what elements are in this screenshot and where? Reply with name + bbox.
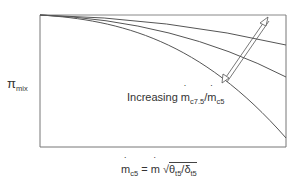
annotation-denominator-subscript: c5 [216, 97, 224, 106]
y-axis-label: πmix [7, 76, 28, 93]
annotation-numerator: m [181, 91, 190, 103]
annotation-denominator: m [207, 91, 216, 103]
annotation-prefix: Increasing [127, 91, 181, 103]
sqrt-radicand: θt5/δt5 [169, 162, 197, 175]
x-label-subscript: c5 [130, 169, 138, 178]
annotation-numerator-subscript: c7.5 [190, 97, 204, 106]
y-axis-symbol: π [7, 76, 16, 91]
curve-1 [40, 15, 286, 45]
x-axis-label: mc5 = m √θt5/δt5 [121, 163, 197, 178]
curve-2 [40, 15, 286, 77]
delta-subscript: t5 [191, 169, 197, 178]
y-axis-subscript: mix [16, 84, 28, 93]
x-label-m: m [151, 163, 160, 175]
x-label-equals: = [138, 163, 151, 175]
x-label-mass-flow: m [121, 163, 130, 175]
annotation-label: Increasing mc7.5/mc5 [127, 91, 224, 106]
curve-3 [40, 15, 286, 138]
increasing-ratio-arrow-icon [222, 17, 269, 83]
